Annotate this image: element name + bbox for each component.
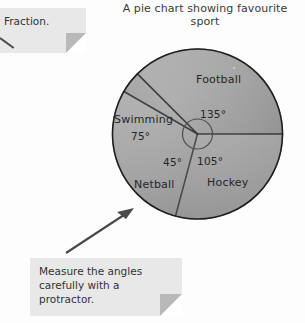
callout-measure: Measure the angles carefully with a prot… (30, 258, 182, 316)
callout-measure-text: Measure the angles carefully with a prot… (39, 264, 174, 306)
measure-callout-arrow (60, 205, 140, 260)
pie-angle-hockey: 105° (197, 155, 223, 167)
arrow-shaft (66, 211, 130, 253)
folded-corner-icon (66, 33, 86, 53)
chart-title: A pie chart showing favourite sport (112, 2, 298, 28)
pie-label-football: Football (196, 73, 241, 86)
pie-angle-football: 135° (200, 108, 226, 120)
folded-corner-icon (160, 294, 182, 316)
pie-label-netball: Netball (134, 178, 175, 191)
worksheet-page: A pie chart showing favourite sport Frac… (0, 0, 305, 323)
callout-fraction-text: Fraction. (4, 14, 80, 28)
pie-label-hockey: Hockey (207, 176, 249, 189)
pie-angle-netball: 45° (163, 156, 182, 168)
pie-label-swimming: Swimming (114, 113, 173, 126)
pie-angle-swimming: 75° (131, 130, 150, 142)
paper-speck (233, 67, 235, 69)
